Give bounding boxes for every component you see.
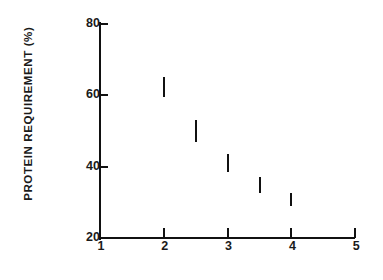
x-axis-tick-label: 4: [280, 240, 304, 253]
data-point-marker: [163, 77, 165, 97]
y-axis-line: [99, 22, 101, 240]
y-axis-tick: [101, 94, 108, 96]
data-point-marker: [227, 154, 229, 172]
x-axis-tick-label: 5: [344, 240, 368, 253]
data-point-marker: [290, 193, 292, 205]
y-axis-tick-label: 60: [60, 88, 100, 101]
y-axis-tick: [101, 166, 108, 168]
y-axis-tick: [101, 23, 108, 25]
chart-figure: PROTEIN REQUIREMENT (%) 8060402012345: [0, 0, 383, 280]
y-axis-label: PROTEIN REQUIREMENT (%): [23, 0, 35, 229]
y-axis-tick-label: 20: [60, 231, 100, 244]
x-axis-tick-label: 1: [89, 240, 113, 253]
x-axis-tick-label: 2: [153, 240, 177, 253]
data-point-marker: [195, 120, 197, 141]
scan-artifact: [0, 0, 383, 2]
y-axis-tick-label: 80: [60, 17, 100, 30]
x-axis-line: [99, 237, 355, 239]
data-point-marker: [259, 177, 261, 193]
y-axis-tick-label: 40: [60, 160, 100, 173]
x-axis-tick-label: 3: [217, 240, 241, 253]
